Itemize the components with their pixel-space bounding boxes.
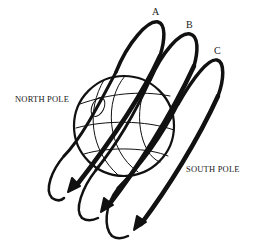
orbit-a-hook [49, 156, 64, 200]
north-pole-label: NORTH POLE [15, 94, 69, 104]
orbit-label-b: B [186, 19, 193, 30]
orbit-label-c: C [214, 45, 221, 56]
orbit-label-a: A [152, 6, 159, 17]
orbit-diagram [0, 0, 265, 249]
globe [74, 76, 174, 176]
south-pole-label: SOUTH POLE [186, 164, 240, 174]
